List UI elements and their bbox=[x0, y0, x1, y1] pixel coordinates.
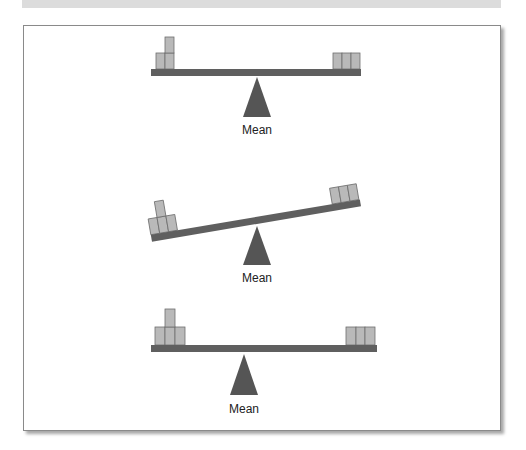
block bbox=[165, 327, 175, 345]
fulcrum-label: Mean bbox=[229, 402, 259, 416]
block bbox=[365, 327, 375, 345]
block bbox=[165, 37, 174, 53]
fulcrum-triangle bbox=[230, 354, 258, 395]
seesaw-middle-base: Mean bbox=[242, 226, 272, 285]
block bbox=[346, 327, 356, 345]
beam bbox=[151, 69, 361, 76]
block bbox=[351, 53, 360, 69]
block bbox=[342, 53, 351, 69]
block bbox=[155, 327, 165, 345]
left-blocks bbox=[145, 199, 177, 235]
block bbox=[165, 309, 175, 327]
seesaw-top: Mean bbox=[151, 37, 361, 137]
left-blocks bbox=[155, 309, 185, 345]
seesaw-diagram: Mean Mean bbox=[0, 0, 526, 450]
block bbox=[356, 327, 365, 345]
fulcrum-label: Mean bbox=[242, 271, 272, 285]
beam bbox=[151, 345, 377, 352]
fulcrum-label: Mean bbox=[242, 123, 272, 137]
right-blocks bbox=[346, 327, 375, 345]
block bbox=[165, 53, 174, 69]
block bbox=[175, 327, 185, 345]
right-blocks bbox=[333, 53, 360, 69]
seesaw-middle bbox=[145, 168, 361, 242]
seesaw-bottom: Mean bbox=[151, 309, 377, 416]
block bbox=[156, 53, 165, 69]
block bbox=[333, 53, 342, 69]
fulcrum-triangle bbox=[243, 77, 271, 117]
left-blocks bbox=[156, 37, 174, 69]
fulcrum-triangle bbox=[243, 226, 271, 265]
block bbox=[154, 200, 166, 217]
